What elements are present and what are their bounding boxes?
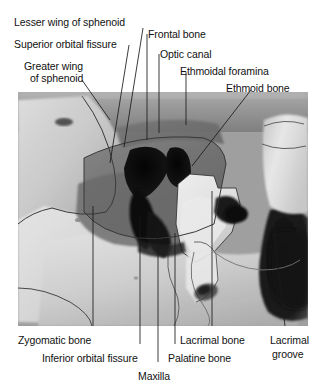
label-inferior-orbital-fissure: Inferior orbital fissure — [42, 352, 138, 364]
label-greater-wing-of-sphenoid-line1: Greater wing — [24, 60, 83, 72]
label-lacrimal-bone: Lacrimal bone — [180, 334, 245, 346]
label-lacrimal-groove-line2: groove — [272, 348, 304, 360]
orbit-photograph — [18, 92, 308, 326]
label-ethmoid-bone: Ethmoid bone — [226, 82, 290, 94]
label-lesser-wing-of-sphenoid: Lesser wing of sphenoid — [14, 16, 125, 28]
label-greater-wing-of-sphenoid-line2: of sphenoid — [30, 72, 83, 84]
label-frontal-bone: Frontal bone — [148, 28, 206, 40]
orbit-anatomy-figure: Lesser wing of sphenoid Superior orbital… — [0, 0, 324, 390]
label-zygomatic-bone: Zygomatic bone — [18, 334, 91, 346]
label-superior-orbital-fissure: Superior orbital fissure — [14, 38, 117, 50]
label-optic-canal: Optic canal — [160, 48, 211, 60]
label-palatine-bone: Palatine bone — [168, 352, 231, 364]
label-ethmoidal-foramina: Ethmoidal foramina — [180, 65, 269, 77]
label-maxilla: Maxilla — [138, 370, 170, 382]
label-lacrimal-groove-line1: Lacrimal — [270, 334, 309, 346]
